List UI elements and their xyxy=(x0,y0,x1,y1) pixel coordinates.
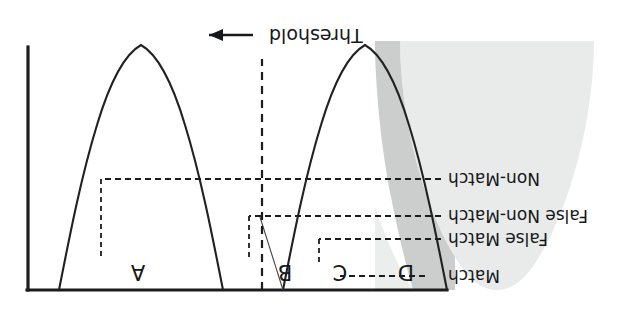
region-label-C: C xyxy=(333,260,348,284)
callout-label-false-non-match: False Non-Match xyxy=(448,206,588,226)
shaded-regions-group xyxy=(182,41,594,290)
left-arrow-icon xyxy=(209,29,223,41)
region-label-A: A xyxy=(130,260,145,284)
callout-label-match: Match xyxy=(448,266,500,286)
region-D-area xyxy=(182,41,375,290)
rotated-figure-canvas: Threshold A B C D Match Fa xyxy=(0,0,637,317)
region-label-D: D xyxy=(398,260,414,284)
region-label-B: B xyxy=(278,260,292,284)
threshold-label: Threshold xyxy=(269,25,364,47)
callout-label-non-match: Non-Match xyxy=(448,169,540,189)
distribution-plot: Threshold A B C D Match Fa xyxy=(0,0,637,317)
figure-root: Threshold A B C D Match Fa xyxy=(0,0,637,317)
callout-label-false-match: False Match xyxy=(448,229,548,249)
